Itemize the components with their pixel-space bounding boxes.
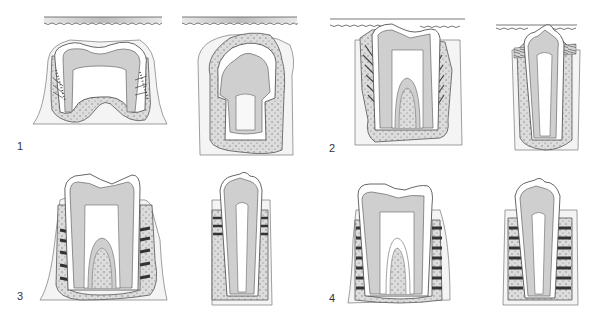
panel-label-3: 3 xyxy=(17,290,23,302)
panel-label-4: 4 xyxy=(329,292,335,304)
panel-2: 2 xyxy=(329,19,580,154)
panel-2-incisor xyxy=(512,25,580,150)
panel-2-molar xyxy=(355,24,462,145)
panel-1: 1 xyxy=(17,17,297,155)
panel-3-incisor xyxy=(212,172,272,305)
panel-4-molar xyxy=(348,184,450,303)
panel-label-1: 1 xyxy=(17,140,23,152)
dental-illustration: 1 2 xyxy=(0,0,597,320)
panel-1-incisor xyxy=(198,33,294,155)
panel-4: 4 xyxy=(329,178,578,305)
panel-3-molar xyxy=(40,174,167,300)
panel-3: 3 xyxy=(17,172,272,305)
panel-1-molar xyxy=(33,40,167,124)
panel-label-2: 2 xyxy=(329,142,335,154)
panel-4-incisor xyxy=(503,178,578,305)
oral-mucosa xyxy=(330,19,577,30)
oral-mucosa xyxy=(44,17,297,25)
